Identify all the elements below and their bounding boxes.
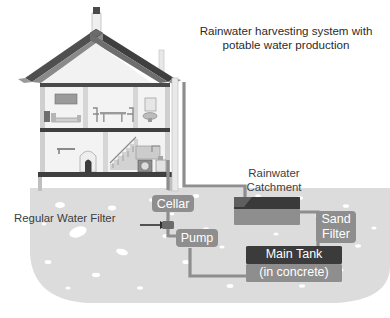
lower-floor	[40, 132, 170, 172]
house	[18, 7, 181, 191]
toilet	[143, 98, 157, 122]
rainwater-catchment-label: Rainwater Catchment	[234, 167, 314, 194]
sand-filter-chip[interactable]: Sand Filter	[316, 211, 356, 243]
regular-water-filter-label: Regular Water Filter	[14, 212, 116, 224]
rainwater-catchment-line-2: Catchment	[246, 181, 301, 193]
pump-chip[interactable]: Pump	[176, 229, 218, 247]
page-title: Rainwater harvesting system with potable…	[188, 24, 384, 52]
sand-filter-line-2: Filter	[322, 227, 350, 242]
rainwater-catchment-line-1: Rainwater	[248, 167, 299, 179]
title-line-2: potable water production	[223, 38, 350, 51]
roof	[18, 29, 181, 84]
main-tank-label: Main Tank	[246, 248, 342, 261]
fireplace	[80, 151, 96, 172]
sand-filter-line-1: Sand	[321, 212, 350, 227]
title-line-1: Rainwater harvesting system with	[200, 24, 373, 37]
main-tank-sublabel: (in concrete)	[246, 266, 342, 279]
washing-machine	[138, 160, 152, 172]
cellar-chip[interactable]: Cellar	[152, 195, 194, 212]
diagram-canvas: Rainwater harvesting system with potable…	[0, 0, 390, 318]
upper-floor	[40, 87, 170, 128]
catchment-tank[interactable]	[234, 197, 300, 225]
